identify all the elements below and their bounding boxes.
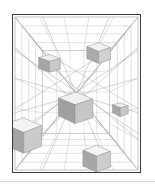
bottom-whitespace bbox=[0, 174, 155, 181]
page-root bbox=[0, 0, 155, 187]
cube-upper-left bbox=[39, 54, 61, 72]
figure-frame bbox=[12, 14, 141, 173]
caption-area bbox=[0, 182, 155, 187]
scene-canvas bbox=[13, 15, 140, 172]
cube-bottom bbox=[83, 145, 111, 172]
